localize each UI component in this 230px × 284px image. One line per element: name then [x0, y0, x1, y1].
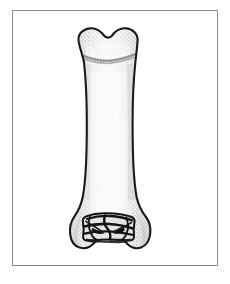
plate-frame — [12, 10, 218, 266]
figure-root: anterior view — [0, 0, 230, 284]
